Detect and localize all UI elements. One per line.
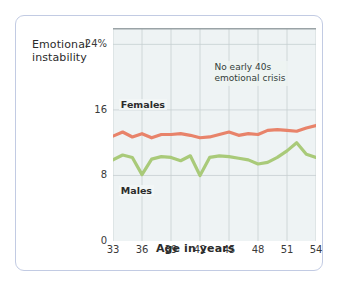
chart-card: Emotional instability Females Males No e…	[15, 15, 323, 271]
y-tick-8: 8	[73, 169, 107, 180]
x-tick-36: 36	[130, 244, 154, 255]
chart-annotation: No early 40s emotional crisis	[212, 61, 289, 86]
x-tick-48: 48	[246, 244, 270, 255]
y-tick-16: 16	[73, 104, 107, 115]
chart-svg	[113, 28, 316, 241]
x-axis-title: Age in years	[156, 242, 234, 255]
x-tick-51: 51	[275, 244, 299, 255]
x-tick-54: 54	[304, 244, 328, 255]
y-tick-24: 24%	[73, 38, 107, 49]
x-tick-33: 33	[101, 244, 125, 255]
series-label-males: Males	[119, 185, 154, 196]
series-label-females: Females	[119, 99, 167, 110]
plot-area: Females Males No early 40s emotional cri…	[113, 28, 316, 241]
